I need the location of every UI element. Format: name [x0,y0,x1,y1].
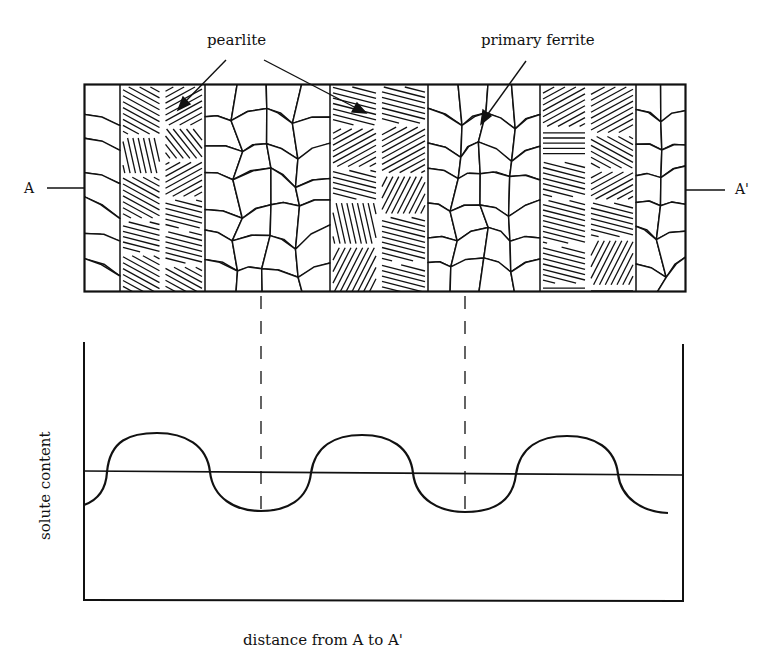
mean-baseline [84,471,683,475]
y-axis-label: solute content [38,431,53,540]
x-axis [83,600,684,601]
primary-ferrite-label: primary ferrite [481,33,595,48]
section-start-label: A [24,181,34,195]
x-axis-label: distance from A to A' [243,633,403,648]
banding-diagram [0,0,778,655]
projection-lines [261,296,465,512]
solute-plot [83,342,684,602]
section-end-label: A' [735,182,749,196]
micrograph [84,78,686,322]
pearlite-label: pearlite [207,33,266,48]
